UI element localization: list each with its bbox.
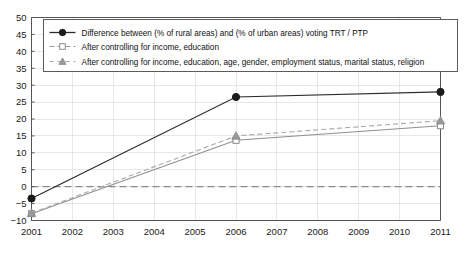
y-tick-label: 25 xyxy=(16,96,27,107)
line-chart: 50454035302520151050−5−10 20012002200320… xyxy=(0,0,471,259)
y-tick-label: 20 xyxy=(16,113,27,124)
x-tick-label: 2007 xyxy=(266,226,287,237)
data-point-triangle xyxy=(232,132,240,140)
legend-label: Difference between (% of rural areas) an… xyxy=(82,29,369,38)
legend-entry: Difference between (% of rural areas) an… xyxy=(50,29,369,38)
y-axis-tick-labels: 50454035302520151050−5−10 xyxy=(10,12,34,226)
x-tick-label: 2002 xyxy=(62,226,83,237)
x-tick-label: 2008 xyxy=(307,226,328,237)
x-axis-tick-labels: 2001200220032004200520062007200820092010… xyxy=(21,226,451,237)
legend-marker-square xyxy=(60,44,66,50)
y-tick-label: 40 xyxy=(16,46,27,57)
legend-label: After controlling for income, education xyxy=(82,43,220,52)
data-point-circle xyxy=(437,88,444,95)
x-tick-label: 2004 xyxy=(144,226,165,237)
x-tick-label: 2006 xyxy=(225,226,246,237)
y-tick-label: 50 xyxy=(16,12,27,23)
legend-marker-circle xyxy=(59,29,65,35)
chart-legend: Difference between (% of rural areas) an… xyxy=(44,20,458,72)
data-point-circle xyxy=(28,195,35,202)
y-tick-label: 10 xyxy=(16,147,27,158)
legend-label: After controlling for income, education,… xyxy=(82,58,425,67)
y-tick-label: 5 xyxy=(21,164,26,175)
y-tick-label: 45 xyxy=(16,29,27,40)
data-point-circle xyxy=(232,93,239,100)
chart-screenshot: 50454035302520151050−5−10 20012002200320… xyxy=(0,0,471,259)
x-tick-label: 2009 xyxy=(348,226,369,237)
y-tick-label: 30 xyxy=(16,80,27,91)
legend-entry: After controlling for income, education,… xyxy=(50,58,425,67)
y-tick-label: −10 xyxy=(10,215,26,226)
x-tick-label: 2001 xyxy=(21,226,42,237)
x-tick-label: 2005 xyxy=(185,226,206,237)
y-tick-label: −5 xyxy=(16,198,27,209)
y-tick-label: 0 xyxy=(21,181,26,192)
y-tick-label: 35 xyxy=(16,63,27,74)
x-tick-label: 2003 xyxy=(103,226,124,237)
x-tick-label: 2010 xyxy=(389,226,410,237)
x-tick-label: 2011 xyxy=(430,226,450,237)
y-tick-label: 15 xyxy=(16,130,27,141)
data-point-triangle xyxy=(436,116,444,124)
